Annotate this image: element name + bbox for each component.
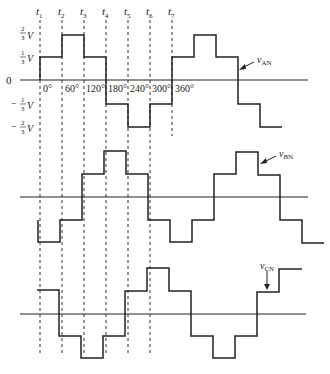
- svg-text:2: 2: [21, 25, 25, 33]
- svg-text:180°: 180°: [108, 83, 127, 94]
- svg-text:3: 3: [21, 128, 25, 136]
- svg-text:3: 3: [21, 105, 25, 113]
- svg-text:1: 1: [21, 96, 25, 104]
- svg-text:3: 3: [21, 58, 25, 66]
- label-two-thirds-v: 2 3 V: [20, 25, 35, 42]
- svg-text:vBN: vBN: [279, 148, 293, 161]
- svg-text:V: V: [27, 30, 35, 41]
- label-v-bn: vBN: [260, 148, 293, 164]
- time-labels: t1 t2 t3 t4 t5 t6 t7: [36, 5, 175, 20]
- svg-text:360°: 360°: [175, 83, 194, 94]
- svg-text:3: 3: [21, 34, 25, 42]
- time-label-t3: t3: [80, 5, 87, 20]
- time-label-t2: t2: [58, 5, 65, 20]
- svg-text:240°: 240°: [130, 83, 149, 94]
- svg-text:300°: 300°: [152, 83, 171, 94]
- svg-text:0°: 0°: [43, 83, 52, 94]
- time-label-t5: t5: [124, 5, 131, 20]
- zero-axes: [20, 80, 308, 314]
- svg-text:−: −: [11, 98, 17, 109]
- label-zero: 0: [6, 74, 12, 86]
- svg-text:−: −: [11, 121, 17, 132]
- time-label-t7: t7: [168, 5, 175, 20]
- svg-text:V: V: [27, 53, 35, 64]
- label-minus-two-thirds-v: − 2 3 V: [11, 119, 35, 136]
- time-label-t6: t6: [146, 5, 153, 20]
- label-minus-one-third-v: − 1 3 V: [11, 96, 35, 113]
- label-v-cn: vCN: [260, 260, 274, 290]
- time-label-t4: t4: [102, 5, 109, 20]
- svg-text:2: 2: [21, 119, 25, 127]
- waveform-v-an: [40, 35, 282, 127]
- svg-text:V: V: [27, 123, 35, 134]
- time-label-t1: t1: [36, 5, 43, 20]
- svg-text:1: 1: [21, 49, 25, 57]
- label-v-an: vAN: [239, 54, 272, 70]
- waveform-diagram: t1 t2 t3 t4 t5 t6 t7 2 3 V 1 3 V 0 − 1 3…: [0, 0, 330, 374]
- label-one-third-v: 1 3 V: [20, 49, 35, 66]
- svg-text:V: V: [27, 100, 35, 111]
- svg-text:vCN: vCN: [260, 260, 274, 273]
- svg-text:vAN: vAN: [257, 54, 272, 67]
- svg-text:60°: 60°: [65, 83, 79, 94]
- waveform-v-cn: [37, 268, 302, 358]
- svg-text:120°: 120°: [86, 83, 105, 94]
